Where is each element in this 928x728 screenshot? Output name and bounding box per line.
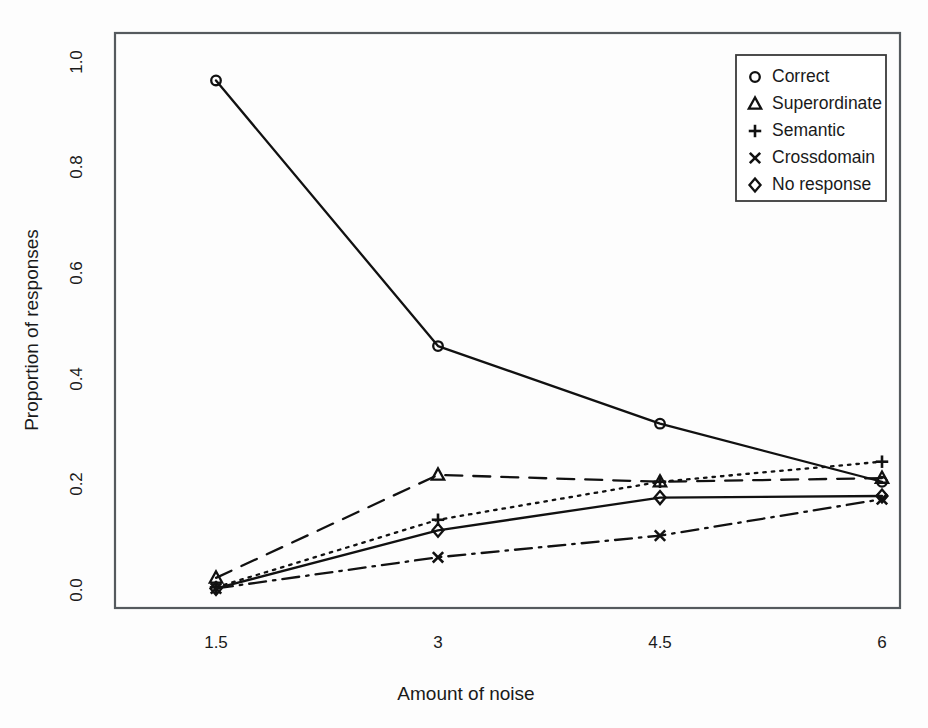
x-tick-label: 6	[877, 633, 886, 652]
series-no-response	[210, 490, 887, 595]
chart-figure: 0.0 0.2 0.4 0.6 0.8 1.0 Proportion of re…	[0, 0, 928, 728]
legend-label: No response	[772, 174, 871, 194]
series-crossdomain	[211, 494, 887, 594]
series-superordinate	[210, 468, 888, 582]
chart-canvas: 0.0 0.2 0.4 0.6 0.8 1.0 Proportion of re…	[0, 0, 928, 728]
x-tick-labels: 1.5 3 4.5 6	[204, 633, 887, 652]
legend-label: Semantic	[772, 120, 845, 140]
y-tick-label: 0.2	[67, 472, 86, 496]
legend-label: Correct	[772, 66, 830, 86]
x-tick-label: 4.5	[648, 633, 672, 652]
chart-legend: CorrectSuperordinateSemanticCrossdomainN…	[736, 55, 886, 201]
legend-label: Crossdomain	[772, 147, 875, 167]
plus-marker	[876, 455, 888, 467]
y-tick-label: 0.0	[67, 578, 86, 602]
x-tick-label: 1.5	[204, 633, 228, 652]
y-tick-label: 0.6	[67, 261, 86, 285]
x-axis-title: Amount of noise	[397, 683, 534, 704]
series-line	[216, 499, 882, 588]
legend-label: Superordinate	[772, 93, 882, 113]
x-tick-label: 3	[433, 633, 442, 652]
y-axis-title: Proportion of responses	[21, 229, 42, 431]
y-tick-label: 0.8	[67, 155, 86, 179]
y-tick-labels: 0.0 0.2 0.4 0.6 0.8 1.0	[67, 50, 86, 602]
triangle-marker	[432, 468, 444, 479]
series-semantic	[210, 455, 888, 593]
y-tick-label: 0.4	[67, 367, 86, 391]
y-tick-label: 1.0	[67, 50, 86, 74]
